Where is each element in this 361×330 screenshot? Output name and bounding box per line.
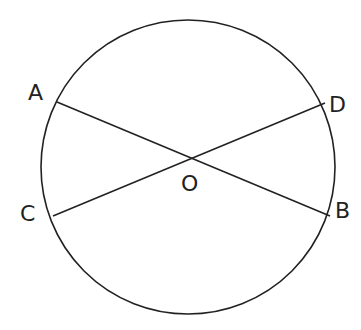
label-d: D [329,92,346,117]
chord-ab [57,102,330,216]
circle-chords-diagram: A D O C B [0,0,361,330]
label-b: B [335,198,350,223]
label-a: A [28,80,43,105]
circle [41,20,335,314]
chord-cd [53,103,325,216]
label-c: C [20,201,35,226]
label-o: O [181,171,198,196]
